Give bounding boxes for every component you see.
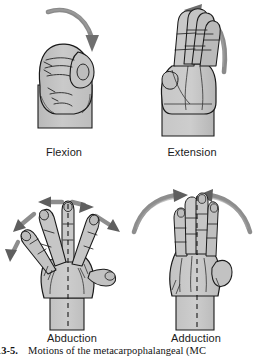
figure-page: Flexion <box>0 0 256 359</box>
panel-extension <box>128 0 256 143</box>
panel-flexion <box>0 0 128 143</box>
label-adduction: Adduction <box>132 332 256 344</box>
figure-caption: re 13-5.Motions of the metacarpophalange… <box>0 345 256 356</box>
figure-caption-number: re 13-5. <box>0 345 18 356</box>
abduction-illustration <box>0 186 128 331</box>
panel-abduction <box>0 186 128 331</box>
extension-illustration <box>128 0 256 143</box>
panel-adduction <box>128 186 256 331</box>
label-extension: Extension <box>128 146 256 158</box>
adduction-illustration <box>128 186 256 331</box>
label-abduction: Abduction <box>8 332 136 344</box>
label-flexion: Flexion <box>0 146 128 158</box>
figure-caption-text: Motions of the metacarpophalangeal (MC <box>28 345 206 356</box>
flexion-illustration <box>0 0 128 143</box>
